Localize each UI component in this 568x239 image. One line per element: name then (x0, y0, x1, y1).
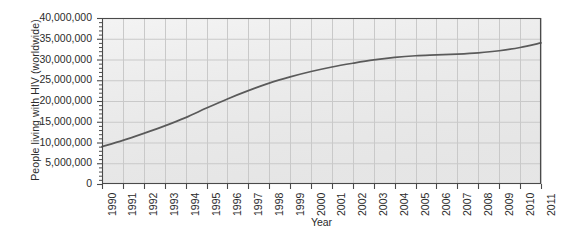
x-axis-tick-labels: 1990199119921993199419951996199719981999… (0, 0, 568, 239)
hiv-prevalence-line-chart: People living with HIV (worldwide) Year … (0, 0, 568, 239)
x-axis-tick-label: 2006 (441, 193, 452, 216)
x-axis-tick-label: 1995 (211, 193, 222, 216)
x-axis-tick-label: 2005 (420, 193, 431, 216)
x-axis-tick-label: 2001 (336, 193, 347, 216)
x-axis-tick-label: 2002 (357, 193, 368, 216)
x-axis-tick-label: 2009 (504, 193, 515, 216)
x-axis-tick-label: 1999 (295, 193, 306, 216)
x-axis-tick-label: 2011 (546, 193, 557, 216)
x-axis-tick-label: 2004 (399, 193, 410, 216)
x-axis-tick-label: 2008 (483, 193, 494, 216)
x-axis-tick-label: 1993 (169, 193, 180, 216)
x-axis-tick-label: 2000 (316, 193, 327, 216)
x-axis-tick-label: 1997 (253, 193, 264, 216)
x-axis-tick-label: 1992 (148, 193, 159, 216)
x-axis-tick-label: 1991 (127, 193, 138, 216)
x-axis-tick-label: 1996 (232, 193, 243, 216)
x-axis-tick-label: 1994 (190, 193, 201, 216)
x-axis-tick-label: 2007 (462, 193, 473, 216)
x-axis-tick-label: 2010 (525, 193, 536, 216)
x-axis-tick-label: 1990 (107, 193, 118, 216)
x-axis-tick-label: 1998 (274, 193, 285, 216)
x-axis-tick-label: 2003 (378, 193, 389, 216)
